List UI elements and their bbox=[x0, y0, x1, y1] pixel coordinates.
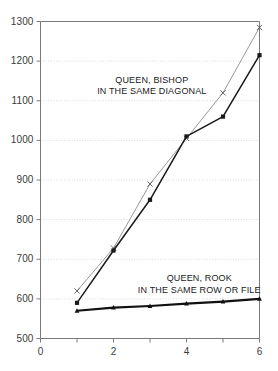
queen-bishop-label: QUEEN, BISHOPIN THE SAME DIAGONAL bbox=[97, 75, 206, 98]
x-tick-label-2: 2 bbox=[111, 347, 117, 357]
annotation-line: QUEEN, BISHOP bbox=[97, 75, 206, 87]
annotation-line: IN THE SAME DIAGONAL bbox=[97, 86, 206, 98]
data-point-marker bbox=[257, 53, 261, 57]
data-point-marker bbox=[111, 248, 115, 252]
x-tick-label-4: 4 bbox=[184, 347, 190, 357]
x-tick-label-0: 0 bbox=[38, 347, 44, 357]
x-tick-label-6: 6 bbox=[257, 347, 263, 357]
y-tick-label-1000: 1000 bbox=[11, 135, 34, 145]
series-queen-bishop-same-diagonal-upper bbox=[74, 25, 262, 294]
y-tick-label-600: 600 bbox=[17, 294, 34, 304]
data-point-marker bbox=[75, 301, 79, 305]
data-point-marker bbox=[147, 181, 152, 186]
data-point-marker bbox=[220, 90, 225, 95]
y-tick-label-1200: 1200 bbox=[11, 56, 34, 66]
data-point-marker bbox=[74, 288, 79, 293]
plot-area bbox=[0, 0, 278, 371]
annotation-line: QUEEN, ROOK bbox=[138, 273, 261, 285]
data-point-marker bbox=[221, 115, 225, 119]
y-tick-label-800: 800 bbox=[17, 215, 34, 225]
y-tick-label-700: 700 bbox=[17, 254, 34, 264]
data-series-layer bbox=[74, 25, 262, 313]
chart-container: 5006007008009001000110012001300 0246 QUE… bbox=[0, 0, 278, 371]
y-tick-label-1300: 1300 bbox=[11, 17, 34, 27]
y-tick-label-900: 900 bbox=[17, 175, 34, 185]
annotation-line: IN THE SAME ROW OR FILE bbox=[138, 285, 261, 297]
queen-rook-label: QUEEN, ROOKIN THE SAME ROW OR FILE bbox=[138, 273, 261, 296]
y-tick-label-500: 500 bbox=[17, 334, 34, 344]
y-tick-label-1100: 1100 bbox=[12, 96, 34, 106]
data-point-marker bbox=[148, 198, 152, 202]
data-point-marker bbox=[184, 134, 188, 138]
